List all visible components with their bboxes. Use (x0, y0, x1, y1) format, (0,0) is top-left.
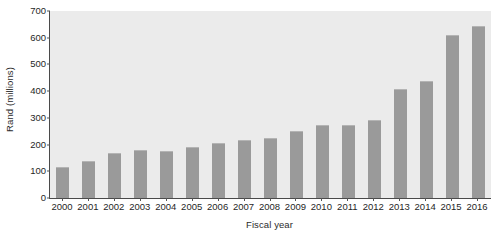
x-axis-tick-mark (425, 198, 426, 201)
y-axis-tick-label: 700 (16, 6, 46, 16)
x-axis-tick-mark (192, 198, 193, 201)
bar (108, 153, 121, 198)
x-axis-tick-mark (477, 198, 478, 201)
y-axis-tick-mark (47, 91, 50, 92)
y-axis-tick-label: 300 (16, 113, 46, 123)
y-axis-tick-label: 400 (16, 86, 46, 96)
x-axis-tick-label: 2004 (155, 201, 176, 212)
x-axis-tick-mark (88, 198, 89, 201)
x-axis-tick-label: 2014 (415, 201, 436, 212)
bar (342, 125, 355, 198)
bar (82, 161, 95, 198)
x-axis-tick-label: 2003 (129, 201, 150, 212)
bar (420, 81, 433, 198)
x-axis-tick-mark (295, 198, 296, 201)
y-axis-tick-label: 600 (16, 33, 46, 43)
y-axis-tick-label: 500 (16, 60, 46, 70)
x-axis-tick-label: 2016 (466, 201, 487, 212)
x-axis-tick-mark (218, 198, 219, 201)
x-axis-title: Fiscal year (49, 219, 490, 230)
bar (394, 89, 407, 198)
bar (160, 151, 173, 198)
x-axis-tick-mark (62, 198, 63, 201)
bar-chart-figure: Rand (millions) 0100200300400500600700 2… (0, 0, 498, 242)
bar (186, 147, 199, 198)
y-axis-tick-mark (47, 11, 50, 12)
x-axis-tick-label: 2013 (389, 201, 410, 212)
bar (264, 138, 277, 198)
x-axis-tick-mark (321, 198, 322, 201)
x-axis-tick-mark (373, 198, 374, 201)
x-axis-tick-label: 2000 (51, 201, 72, 212)
x-axis-tick-mark (270, 198, 271, 201)
x-axis-tick-label: 2015 (441, 201, 462, 212)
y-axis-tick-mark (47, 144, 50, 145)
bar (472, 26, 485, 198)
bar (134, 150, 147, 198)
y-axis-tick-mark (47, 171, 50, 172)
bar (446, 35, 459, 198)
x-axis-tick-label: 2011 (337, 201, 357, 212)
x-axis-tick-mark (140, 198, 141, 201)
x-axis-tick-label: 2006 (207, 201, 228, 212)
x-axis-tick-mark (244, 198, 245, 201)
y-axis-tick-label: 0 (16, 193, 46, 203)
bar (212, 143, 225, 198)
x-axis-tick-label: 2001 (77, 201, 98, 212)
bar (368, 120, 381, 198)
x-axis-tick-mark (114, 198, 115, 201)
x-axis-tick-label: 2005 (181, 201, 202, 212)
y-axis-tick-label: 200 (16, 140, 46, 150)
x-axis-tick-label: 2007 (233, 201, 254, 212)
x-axis-tick-label: 2002 (103, 201, 124, 212)
bars-container (50, 11, 491, 198)
x-axis-tick-label: 2010 (311, 201, 332, 212)
bar (316, 125, 329, 198)
x-axis-tick-mark (347, 198, 348, 201)
x-axis-tick-mark (451, 198, 452, 201)
y-axis-tick-mark (47, 64, 50, 65)
x-axis-tick-label: 2008 (259, 201, 280, 212)
y-axis-tick-mark (47, 198, 50, 199)
bar (290, 131, 303, 198)
x-axis-tick-mark (166, 198, 167, 201)
bar (238, 140, 251, 198)
y-axis-tick-label: 100 (16, 167, 46, 177)
y-axis-tick-mark (47, 117, 50, 118)
bar (56, 167, 69, 198)
x-axis-tick-mark (399, 198, 400, 201)
y-axis-title-text: Rand (millions) (4, 67, 15, 132)
x-axis-tick-label: 2009 (285, 201, 306, 212)
y-axis-tick-mark (47, 37, 50, 38)
x-axis-tick-labels: 2000200120022003200420052006200720082009… (49, 201, 490, 217)
plot-area (49, 11, 491, 199)
y-axis-tick-labels: 0100200300400500600700 (16, 0, 46, 210)
x-axis-tick-label: 2012 (363, 201, 384, 212)
